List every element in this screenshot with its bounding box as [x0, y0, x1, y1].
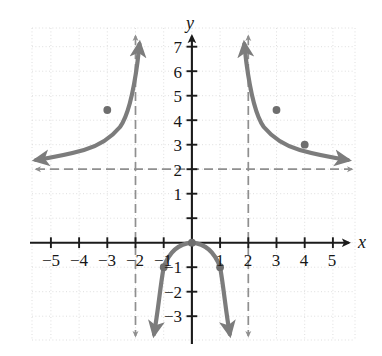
- graph-figure: −5 −4 −3 −2 −1 1 2 3 4 5 7 6 5 4 3 2 1 −…: [0, 0, 382, 356]
- point-origin: [188, 239, 196, 247]
- coordinate-plane: [0, 0, 382, 356]
- y-tick-label-neg2: −2: [156, 284, 182, 301]
- y-axis-label: y: [186, 14, 194, 32]
- grid-lines: [32, 28, 355, 340]
- y-tick-label-4: 4: [162, 113, 182, 130]
- x-tick-label-1: 1: [213, 252, 227, 269]
- x-tick-label-neg4: −4: [68, 252, 90, 269]
- y-tick-label-7: 7: [162, 39, 182, 56]
- y-tick-label-1: 1: [162, 186, 182, 203]
- x-tick-label-neg5: −5: [40, 252, 62, 269]
- y-tick-label-6: 6: [162, 64, 182, 81]
- y-tick-label-5: 5: [162, 88, 182, 105]
- y-axis: [187, 36, 198, 344]
- x-tick-label-2: 2: [241, 252, 255, 269]
- x-axis-label: x: [358, 233, 366, 251]
- point-neg3: [103, 106, 111, 114]
- point-pos3: [273, 106, 281, 114]
- x-tick-label-4: 4: [297, 252, 311, 269]
- left-branch-curve: [36, 44, 140, 160]
- right-branch-curve: [244, 44, 347, 160]
- y-tick-label-neg1: −1: [156, 259, 182, 276]
- y-tick-label-neg3: −3: [156, 308, 182, 325]
- x-tick-label-5: 5: [325, 252, 339, 269]
- y-tick-label-3: 3: [162, 137, 182, 154]
- x-tick-label-3: 3: [269, 252, 283, 269]
- x-tick-label-neg2: −2: [124, 252, 146, 269]
- point-pos4: [301, 141, 309, 149]
- y-tick-label-2: 2: [162, 162, 182, 179]
- x-tick-label-neg3: −3: [96, 252, 118, 269]
